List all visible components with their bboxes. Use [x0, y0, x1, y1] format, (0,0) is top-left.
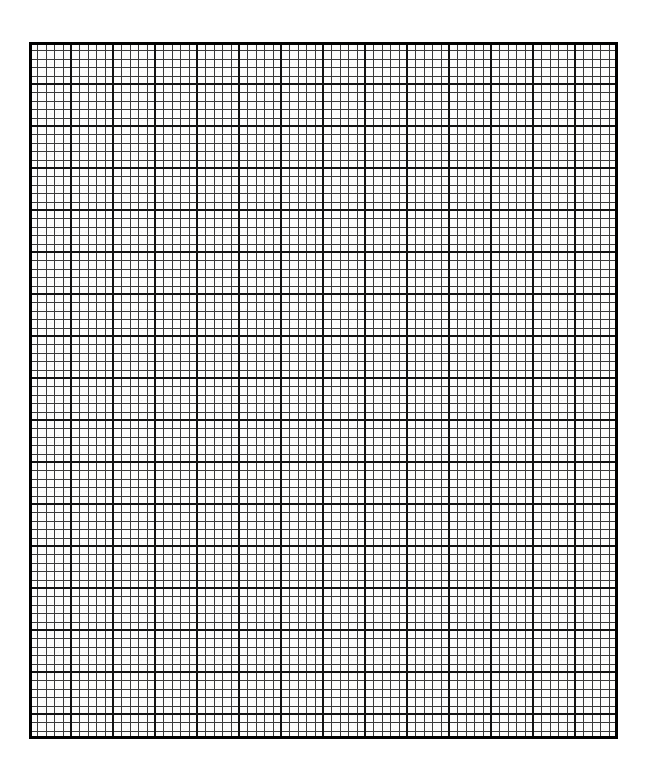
- grid-lines-layer: [29, 42, 618, 739]
- sheet-border: [29, 42, 618, 739]
- paper-texture: [29, 42, 618, 739]
- graph-paper-page: [0, 0, 647, 771]
- graph-paper-sheet: [29, 42, 618, 739]
